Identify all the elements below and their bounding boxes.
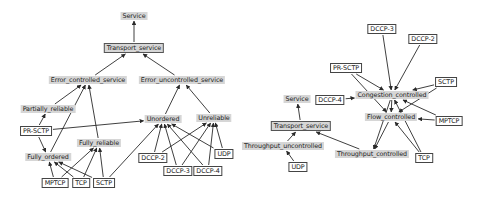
node-mptcp[interactable]: MPTCP [42,178,69,188]
node-service[interactable]: Service [121,12,148,20]
node-r-mptcp[interactable]: MPTCP [436,116,463,126]
node-pr-sctp[interactable]: PR-SCTP [20,126,52,136]
node-error-uncontrolled-service[interactable]: Error_uncontrolled_service [139,76,225,84]
edge-r_dccp3-to-r_congestion_controlled [383,35,391,90]
node-udp[interactable]: UDP [214,149,233,159]
edge-r_pr_sctp-to-r_congestion_controlled [356,74,383,90]
node-r-sctp[interactable]: SCTP [435,77,457,87]
edge-sctp-to-unordered [110,124,159,177]
node-r-flow-controlled[interactable]: Flow_controlled [365,113,417,121]
edge-r_dccp4-to-r_congestion_controlled [346,98,355,99]
edge-udp-to-unreliable [215,123,222,148]
edge-r_sctp-to-r_congestion_controlled [413,85,434,90]
edge-fully_reliable-to-error_controlled_service [89,85,98,138]
node-r-dccp3[interactable]: DCCP-3 [367,24,396,34]
node-r-throughput-uncontrolled[interactable]: Throughput_uncontrolled [242,142,324,150]
node-error-controlled-service[interactable]: Error_controlled_service [49,76,127,84]
node-r-tcp[interactable]: TCP [415,153,433,163]
edge-sctp-to-fully_reliable [100,148,104,177]
node-tcp[interactable]: TCP [72,178,90,188]
edge-unreliable-to-error_uncontrolled_service [186,85,210,113]
edge-tcp-to-fully_reliable [84,148,97,177]
edge-mptcp-to-fully_ordered [49,162,53,177]
edge-r_throughput_uncontrolled-to-r_transport_service [288,132,296,141]
edge-pr_sctp-to-fully_ordered [39,137,46,152]
edge-r_dccp2-to-r_congestion_controlled [395,45,420,90]
node-r-congestion-controlled[interactable]: Congestion_controlled [356,91,429,99]
node-transport-service[interactable]: Transport_service [104,43,164,53]
node-dccp2[interactable]: DCCP-2 [138,153,167,163]
node-partially-reliable[interactable]: Partially_reliable [21,105,76,113]
edge-r_transport_service-to-r_service [298,104,300,120]
edge-unordered-to-error_uncontrolled_service [165,85,179,114]
node-dccp3[interactable]: DCCP-3 [163,166,192,176]
node-r-dccp2[interactable]: DCCP-2 [408,34,437,44]
edge-dccp4-to-unordered [167,124,202,165]
edge-dccp4-to-unreliable [209,123,214,165]
node-r-service[interactable]: Service [284,95,311,103]
node-r-throughput-controlled[interactable]: Throughput_controlled [335,150,409,158]
node-r-transport-service[interactable]: Transport_service [271,121,331,131]
diagram-edges [0,0,482,199]
node-fully-reliable[interactable]: Fully_reliable [77,139,121,147]
edge-dccp2-to-unordered [155,124,162,152]
node-dccp4[interactable]: DCCP-4 [193,166,222,176]
node-sctp[interactable]: SCTP [93,178,115,188]
edge-r_mptcp-to-r_flow_controlled [418,119,435,120]
edge-error_controlled_service-to-transport_service [95,54,125,75]
node-unordered[interactable]: Unordered [145,115,182,123]
node-unreliable[interactable]: Unreliable [196,114,231,122]
node-fully-ordered[interactable]: Fully_ordered [25,153,71,161]
node-r-udp[interactable]: UDP [288,162,307,172]
node-r-dccp4[interactable]: DCCP-4 [315,95,344,105]
edge-error_uncontrolled_service-to-transport_service [143,54,175,75]
node-r-pr-sctp[interactable]: PR-SCTP [330,63,362,73]
edge-pr_sctp-to-partially_reliable [39,114,45,125]
edge-r_udp-to-r_throughput_uncontrolled [287,151,294,161]
edge-r_tcp-to-r_flow_controlled [395,122,419,152]
edge-r_congestion_controlled-to-r_flow_controlled [391,100,392,112]
